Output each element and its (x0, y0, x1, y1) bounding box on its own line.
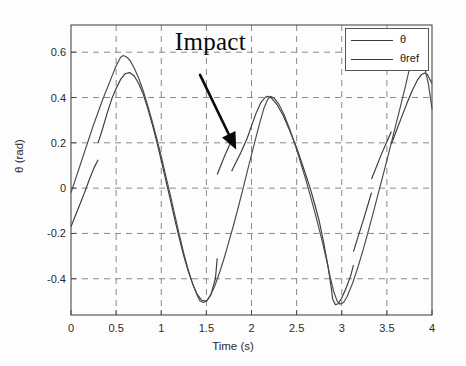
y-tick-label: -0.4 (28, 273, 66, 285)
x-tick-label: 2.5 (289, 322, 304, 334)
legend-label: θref (400, 52, 419, 64)
x-tick-label: 2 (248, 322, 254, 334)
chart-legend: θ θref (345, 28, 429, 71)
x-axis-label: Time (s) (0, 340, 466, 352)
legend-line-swatch (351, 59, 393, 60)
y-tick-label: 0.6 (28, 46, 66, 58)
y-tick-label: 0 (28, 182, 66, 194)
y-tick-label: 0.2 (28, 137, 66, 149)
x-tick-label: 1.5 (199, 322, 214, 334)
y-tick-label: 0.4 (28, 92, 66, 104)
legend-line-swatch (351, 40, 393, 41)
x-tick-label: 4 (429, 322, 435, 334)
x-tick-label: 0 (68, 322, 74, 334)
impact-arrow-shaft (200, 75, 230, 137)
x-tick-label: 1 (158, 322, 164, 334)
impact-arrow (200, 75, 236, 150)
y-tick-label: -0.2 (28, 227, 66, 239)
legend-label: θ (400, 33, 406, 45)
legend-entry-theta: θ (346, 31, 428, 51)
y-axis-label: θ (rad) (13, 111, 25, 201)
x-tick-label: 3.5 (379, 322, 394, 334)
x-tick-label: 0.5 (108, 322, 123, 334)
impact-annotation-label: Impact (175, 28, 246, 56)
x-tick-label: 3 (339, 322, 345, 334)
chart-figure: 00.511.522.533.54 0.60.40.20-0.2-0.4 Tim… (0, 0, 466, 366)
legend-entry-thetaref: θref (346, 50, 428, 70)
